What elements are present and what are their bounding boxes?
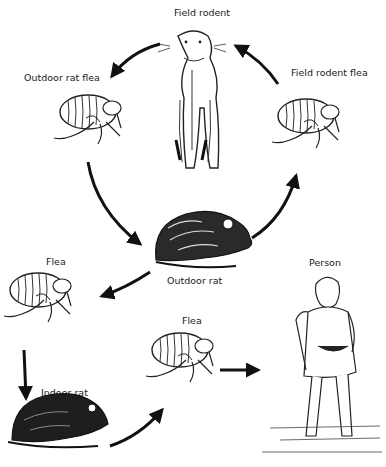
label-field-rodent-flea: Field rodent flea (291, 67, 368, 78)
arrow-outdoor-rat-to-field-rodent-flea (252, 176, 296, 238)
label-indoor-rat: Indoor rat (41, 387, 88, 398)
arrow-indoor-rat-to-flea-2 (110, 410, 162, 446)
arrow-outdoor-rat-flea-to-outdoor-rat (88, 162, 140, 244)
label-flea-2: Flea (182, 315, 202, 326)
flea-1-illustration (4, 273, 71, 322)
outdoor-rat-illustration (156, 211, 252, 267)
field-rodent-illustration (158, 31, 226, 168)
arrow-flea-1-to-indoor-rat (24, 350, 26, 398)
person-illustration (262, 277, 382, 452)
indoor-rat-illustration (8, 394, 108, 448)
label-field-rodent: Field rodent (174, 7, 230, 18)
label-outdoor-rat-flea: Outdoor rat flea (24, 72, 100, 83)
outdoor-rat-flea-illustration (54, 95, 121, 144)
label-outdoor-rat: Outdoor rat (167, 275, 222, 286)
arrow-outdoor-rat-to-flea-1 (102, 272, 150, 296)
arrow-field-rodent-flea-to-field-rodent (236, 46, 278, 84)
field-rodent-flea-illustration (272, 99, 339, 148)
label-person: Person (309, 257, 341, 268)
flea-2-illustration (146, 333, 213, 382)
label-flea-1: Flea (46, 256, 66, 267)
arrow-field-rodent-to-outdoor-rat-flea (112, 44, 160, 76)
